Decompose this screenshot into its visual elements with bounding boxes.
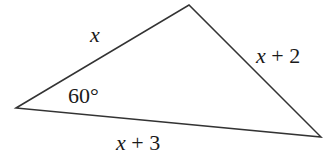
side-label-top-right: x + 2 <box>255 43 300 68</box>
triangle <box>16 5 321 137</box>
angle-label: 60° <box>68 83 99 108</box>
side-label-left-right: x + 3 <box>115 130 160 155</box>
triangle-diagram: x x + 2 60° x + 3 <box>0 0 332 159</box>
side-label-left-top: x <box>89 22 100 47</box>
